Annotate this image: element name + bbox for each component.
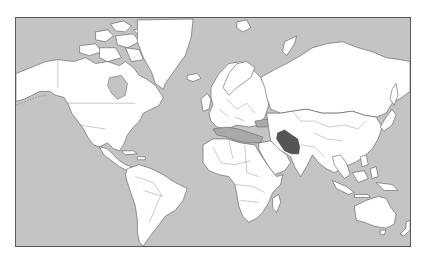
map-page — [0, 0, 425, 260]
world-map-frame — [15, 17, 411, 247]
map-title — [0, 0, 425, 14]
world-map — [16, 18, 410, 246]
